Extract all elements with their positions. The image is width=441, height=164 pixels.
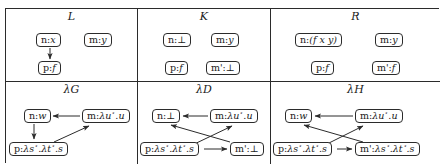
node-mprime-bottom: m':⊥ bbox=[206, 61, 240, 75]
node-n-application: n:(f x y) bbox=[295, 33, 342, 47]
panel-R: R n:(f x y) m:y p:f m':f bbox=[271, 9, 440, 82]
node-p-f: p:f bbox=[38, 61, 61, 75]
node-m-y: m:y bbox=[375, 33, 403, 47]
node-mprime-f: m':f bbox=[372, 61, 400, 75]
panel-title-L: L bbox=[6, 10, 137, 23]
node-p-f: p:f bbox=[165, 61, 188, 75]
edge-p-to-m bbox=[54, 126, 89, 142]
panel-title-lambda-G: λG bbox=[6, 83, 137, 96]
panel-title-lambda-H: λH bbox=[271, 83, 440, 96]
panel-title-K: K bbox=[138, 10, 270, 23]
rewriting-rule-figure: L n:x m:y p:f K n:⊥ m:y p:f m':⊥ R bbox=[5, 8, 439, 163]
node-n-w: n:w bbox=[24, 109, 51, 123]
node-n-w: n:w bbox=[285, 109, 312, 123]
node-n-x: n:x bbox=[36, 33, 61, 47]
node-m-y: m:y bbox=[84, 33, 112, 47]
panel-L: L n:x m:y p:f bbox=[6, 9, 138, 82]
node-n-bottom: n:⊥ bbox=[152, 109, 180, 123]
node-m-y: m:y bbox=[211, 33, 239, 47]
node-p-k-combinator: p:λs⋆.λt⋆.s bbox=[273, 142, 332, 156]
node-m-identity: m:λu⋆.u bbox=[210, 109, 258, 123]
panel-title-R: R bbox=[271, 10, 440, 23]
panel-title-lambda-D: λD bbox=[138, 83, 270, 96]
node-n-bottom: n:⊥ bbox=[163, 33, 191, 47]
panel-lambda-H: λH n:w m:λu⋆.u p:λs⋆.λt⋆.s m':λs⋆.λt⋆.s bbox=[271, 82, 440, 163]
node-m-identity: m:λu⋆.u bbox=[355, 109, 403, 123]
node-p-k-combinator: p:λs⋆.λt⋆.s bbox=[9, 142, 68, 156]
panel-lambda-G: λG n:w m:λu⋆.u p:λs⋆.λt⋆.s bbox=[6, 82, 138, 163]
edge-mprime-to-n bbox=[304, 125, 363, 142]
node-p-f: p:f bbox=[311, 61, 334, 75]
node-mprime-bottom: m':⊥ bbox=[230, 142, 264, 156]
node-mprime-k-combinator: m':λs⋆.λt⋆.s bbox=[355, 142, 420, 156]
panel-grid: L n:x m:y p:f K n:⊥ m:y p:f m':⊥ R bbox=[6, 9, 439, 163]
node-m-identity: m:λu⋆.u bbox=[82, 109, 130, 123]
node-p-k-combinator: p:λs⋆.λt⋆.s bbox=[140, 142, 199, 156]
edge-mprime-to-n bbox=[171, 125, 230, 142]
panel-K: K n:⊥ m:y p:f m':⊥ bbox=[138, 9, 271, 82]
panel-lambda-D: λD n:⊥ m:λu⋆.u p:λs⋆.λt⋆.s m':⊥ bbox=[138, 82, 271, 163]
